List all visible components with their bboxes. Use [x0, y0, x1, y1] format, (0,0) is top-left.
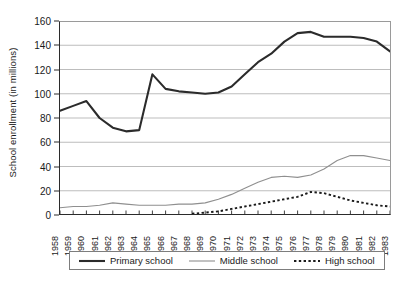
y-axis-tick-label: 20 — [40, 185, 51, 196]
solid-thick-line-icon — [79, 256, 105, 266]
plot-frame — [59, 21, 391, 215]
chart-container: School enrollment (in millions) 02040608… — [0, 0, 407, 281]
dotted-line-icon — [294, 256, 320, 266]
plot-area — [59, 21, 391, 215]
y-axis-tick-label: 120 — [34, 64, 51, 75]
y-axis-tick-label: 80 — [40, 113, 51, 124]
legend-item[interactable]: Primary school — [79, 255, 173, 266]
solid-thin-line-icon — [189, 256, 215, 266]
legend-item-label: High school — [325, 255, 375, 266]
y-axis-tick-label: 100 — [34, 88, 51, 99]
legend-item-label: Middle school — [220, 255, 278, 266]
chart-legend: Primary schoolMiddle schoolHigh school — [69, 251, 385, 270]
y-axis-tick-label: 60 — [40, 137, 51, 148]
legend-item-label: Primary school — [110, 255, 173, 266]
legend-item[interactable]: Middle school — [189, 255, 278, 266]
y-axis-tick-label: 0 — [45, 210, 51, 221]
y-axis-ticks: 020406080100120140160 — [0, 21, 59, 215]
x-axis-tick-label-text: 1958 — [50, 236, 60, 256]
legend-item[interactable]: High school — [294, 255, 375, 266]
y-axis-tick-label: 160 — [34, 16, 51, 27]
y-axis-tick-label: 140 — [34, 40, 51, 51]
y-axis-tick-label: 40 — [40, 161, 51, 172]
